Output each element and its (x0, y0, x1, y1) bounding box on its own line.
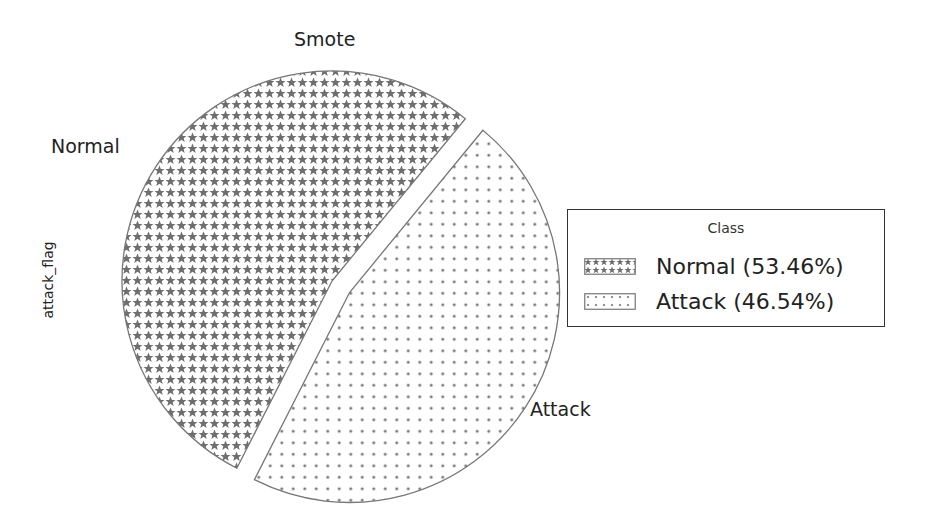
legend-swatch-stars-icon (584, 258, 636, 275)
legend-title: Class (568, 220, 884, 236)
legend-swatch-dots-icon (584, 293, 636, 310)
legend-label-normal: Normal (53.46%) (656, 254, 844, 279)
legend-item-normal: Normal (53.46%) (584, 254, 844, 279)
legend: Class Normal (53.46%) Attack (46.54%) (567, 209, 885, 327)
legend-item-attack: Attack (46.54%) (584, 289, 834, 314)
legend-label-attack: Attack (46.54%) (656, 289, 834, 314)
y-axis-label: attack_flag (40, 241, 56, 318)
slice-label-normal: Normal (51, 135, 120, 157)
slice-label-attack: Attack (530, 398, 591, 420)
chart-title: Smote (294, 28, 355, 50)
